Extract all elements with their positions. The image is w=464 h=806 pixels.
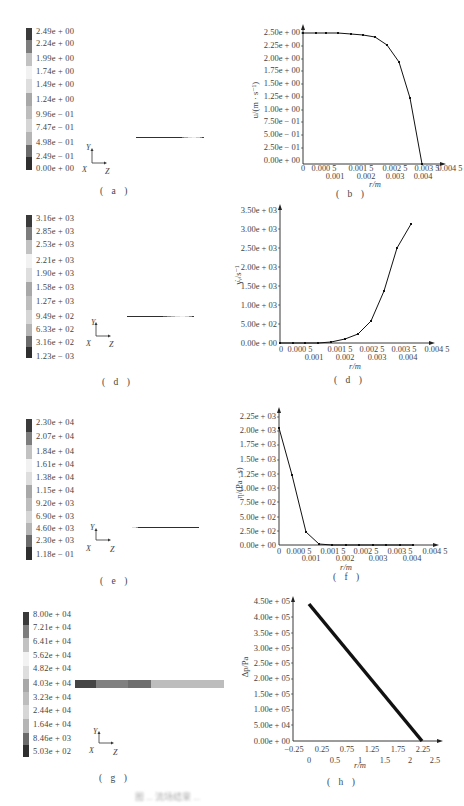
- legend-label: 9.96e − 01: [36, 109, 74, 119]
- svg-text:0.001: 0.001: [326, 172, 345, 181]
- axis-triad: Y X Z: [88, 318, 118, 348]
- svg-text:3.50e + 03: 3.50e + 03: [241, 205, 277, 215]
- chart-viscosity: 2.25e + 03 2.00e + 03 1.75e + 03 1.50e +…: [232, 400, 464, 600]
- svg-text:1.75: 1.75: [391, 745, 406, 754]
- axis-arrows-icon: [90, 523, 120, 553]
- legend-label: 2.49e − 01: [36, 151, 74, 161]
- legend-label: 2.21e + 03: [36, 255, 74, 265]
- svg-text:1.00e + 03: 1.00e + 03: [240, 483, 276, 493]
- legend-label: 1.18e − 01: [36, 549, 74, 559]
- panel-caption: ( d ): [334, 375, 365, 385]
- y-axis-label: u/(m · s⁻¹): [250, 82, 260, 118]
- legend-label: 1.64e + 04: [33, 719, 71, 729]
- svg-text:0.003: 0.003: [369, 554, 388, 563]
- svg-text:2.00e + 03: 2.00e + 03: [240, 425, 276, 435]
- svg-text:1.50e + 05: 1.50e + 05: [254, 689, 290, 699]
- legend-label: 7.21e + 04: [33, 622, 71, 632]
- svg-text:5.00e + 02: 5.00e + 02: [240, 512, 276, 522]
- legend-label: 9.49e + 02: [36, 311, 74, 321]
- legend-label: 2.49e + 00: [36, 26, 74, 36]
- svg-text:3.00e + 03: 3.00e + 03: [241, 224, 277, 234]
- series-line: [280, 224, 411, 343]
- axis-arrows-icon: [88, 318, 118, 348]
- legend-label: 1.49e + 00: [36, 79, 74, 89]
- svg-text:5.00e + 04: 5.00e + 04: [254, 720, 291, 730]
- legend-label: 1.74e + 00: [36, 66, 74, 76]
- svg-text:0.004 5: 0.004 5: [438, 164, 463, 173]
- x-axis-label: r/m: [354, 760, 366, 770]
- x-axis-label: r/m: [349, 361, 361, 371]
- panel-caption: ( b ): [336, 189, 367, 199]
- axis-triad: Y X Z: [90, 727, 120, 757]
- series-markers: [302, 32, 423, 165]
- legend-label: 1.38e + 04: [36, 472, 74, 482]
- svg-text:2.50e − 01: 2.50e − 01: [264, 142, 300, 152]
- chart-plot-area: 3.50e + 03 3.00e + 03 2.50e + 03 2.00e +…: [232, 200, 464, 400]
- svg-text:7.50e − 01: 7.50e − 01: [264, 116, 300, 126]
- svg-text:1.25e + 03: 1.25e + 03: [240, 469, 276, 479]
- svg-text:0.001: 0.001: [302, 554, 321, 563]
- legend-label: 5.03e + 02: [33, 746, 71, 756]
- svg-text:0.004: 0.004: [414, 172, 434, 181]
- svg-text:2.50e + 02: 2.50e + 02: [240, 526, 276, 536]
- svg-text:0.004: 0.004: [399, 353, 419, 362]
- legend-label: 8.00e + 04: [33, 609, 71, 619]
- legend-colorbar: [26, 419, 32, 560]
- contour-quarter-disc: [132, 458, 199, 528]
- legend-label: 4.98e − 01: [36, 137, 74, 147]
- svg-text:7.50e + 02: 7.50e + 02: [240, 497, 276, 507]
- svg-text:0.004 5: 0.004 5: [423, 547, 448, 556]
- legend-label: 6.90e + 03: [36, 511, 74, 521]
- legend-label: 2.07e + 04: [36, 431, 74, 441]
- chart-plot-area: 2.50e + 00 2.25e + 00 2.00e + 00 1.75e +…: [232, 0, 464, 200]
- svg-text:4.00e + 05: 4.00e + 05: [254, 612, 290, 622]
- svg-text:0.003: 0.003: [368, 353, 387, 362]
- series-line: [303, 33, 422, 164]
- legend-label: 2.24e + 00: [36, 38, 74, 48]
- panel-g: 8.00e + 04 7.21e + 04 6.41e + 04 5.62e +…: [0, 600, 232, 790]
- series-line: [309, 604, 422, 741]
- legend-label: 1.61e + 04: [36, 459, 74, 469]
- svg-text:1.00e + 03: 1.00e + 03: [241, 300, 277, 310]
- legend-label: 9.20e + 03: [36, 498, 74, 508]
- svg-text:1.25: 1.25: [365, 745, 380, 754]
- series-markers: [279, 223, 412, 344]
- legend-colorbar: [26, 28, 32, 170]
- svg-text:0.003: 0.003: [386, 172, 405, 181]
- legend-label: 2.85e + 03: [36, 226, 74, 236]
- axis-triad: Y X Z: [82, 143, 112, 173]
- legend-label: 4.60e + 03: [36, 523, 74, 533]
- y-axis-label: Δp/Pa: [240, 656, 250, 677]
- svg-text:3.00e + 05: 3.00e + 05: [254, 643, 290, 653]
- legend-label: 1.23e − 03: [36, 351, 74, 361]
- panel-caption: ( d ): [102, 377, 133, 387]
- legend-label: 2.30e + 03: [36, 535, 74, 545]
- svg-text:0.75: 0.75: [340, 745, 355, 754]
- legend-label: 6.41e + 04: [33, 636, 71, 646]
- svg-text:1.75e + 00: 1.75e + 00: [264, 65, 300, 75]
- svg-text:2.00e + 05: 2.00e + 05: [254, 673, 290, 683]
- svg-text:5.00e + 02: 5.00e + 02: [241, 319, 277, 329]
- legend-label: 0.00e + 00: [36, 163, 74, 173]
- chart-velocity: 2.50e + 00 2.25e + 00 2.00e + 00 1.75e +…: [232, 0, 464, 200]
- series-markers: [278, 427, 414, 546]
- legend-label: 1.58e + 03: [36, 282, 74, 292]
- x-axis-label: r/m: [340, 562, 352, 572]
- svg-text:3.50e + 05: 3.50e + 05: [254, 628, 290, 638]
- legend-label: 1.99e + 00: [36, 53, 74, 63]
- legend-label: 2.53e + 03: [36, 239, 74, 249]
- legend-label: 6.33e + 02: [36, 324, 74, 334]
- panel-c: 3.16e + 03 2.85e + 03 2.53e + 03 2.21e +…: [0, 200, 232, 400]
- legend-label: 3.23e + 04: [33, 692, 71, 702]
- legend-label: 4.82e + 04: [33, 663, 71, 673]
- panel-a: 2.49e + 00 2.24e + 00 1.99e + 00 1.74e +…: [0, 0, 232, 200]
- contour-quarter-disc: [136, 68, 204, 138]
- svg-text:0.5: 0.5: [330, 756, 340, 765]
- legend-label: 3.16e + 03: [36, 213, 74, 223]
- svg-text:2.00e + 00: 2.00e + 00: [264, 53, 300, 63]
- svg-text:4.50e + 05: 4.50e + 05: [254, 596, 290, 606]
- legend-label: 1.15e + 04: [36, 485, 74, 495]
- legend-label: 7.47e − 01: [36, 122, 74, 132]
- figure-caption: 图 ... 流场结果 ...: [135, 790, 335, 800]
- svg-text:2.50e + 00: 2.50e + 00: [264, 27, 300, 37]
